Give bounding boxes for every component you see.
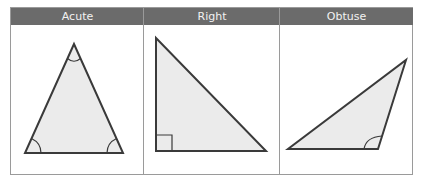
triangles-drawing bbox=[0, 0, 422, 183]
acute-triangle bbox=[25, 44, 123, 153]
right-triangle bbox=[156, 38, 266, 151]
obtuse-triangle bbox=[288, 60, 406, 149]
